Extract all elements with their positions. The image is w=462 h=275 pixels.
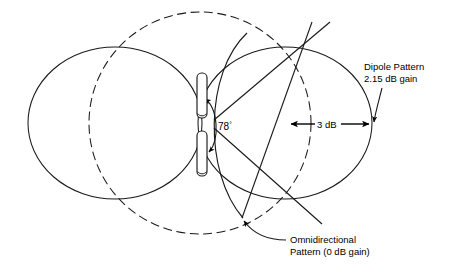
- antenna-pattern-figure: 78° 3 dB Dipole Pattern 2.15 dB gain Om: [0, 0, 462, 275]
- beamwidth-ray-lower: [214, 128, 322, 224]
- dipole-rod-upper: [197, 73, 207, 118]
- dipole-pattern-label: Dipole Pattern 2.15 dB gain: [364, 61, 443, 84]
- dipole-pattern-label-line1: Dipole Pattern: [364, 61, 424, 72]
- omnidirectional-pattern-label: Omnidirectional Pattern (0 dB gain): [290, 234, 383, 257]
- omni-callout-crossing-line: [242, 22, 312, 218]
- beamwidth-angle-value: 78: [218, 121, 230, 132]
- dipole-pattern-left-lobe: [28, 47, 202, 199]
- antenna-pattern-diagram: 78° 3 dB Dipole Pattern 2.15 dB gain Om: [0, 0, 462, 275]
- gain-delta-label: 3 dB: [317, 119, 337, 130]
- degree-symbol: °: [229, 121, 232, 128]
- omnidirectional-pattern-label-line2: Pattern (0 dB gain): [290, 246, 370, 257]
- dipole-pattern-label-line2: 2.15 dB gain: [364, 73, 417, 84]
- omnidirectional-pattern-label-line1: Omnidirectional: [290, 234, 356, 245]
- omnidirectional-pattern-circle: [89, 12, 311, 234]
- beamwidth-angle-label: 78°: [218, 121, 232, 133]
- beamwidth-ray-upper: [214, 22, 330, 120]
- omni-label-leader: [244, 221, 286, 240]
- dipole-label-leader: [374, 88, 382, 122]
- dipole-rod-lower: [197, 131, 207, 176]
